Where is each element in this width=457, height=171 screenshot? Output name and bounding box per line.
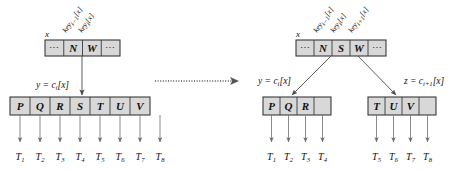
leaf-label: T4 (76, 151, 86, 163)
node-cell: W (87, 42, 98, 54)
pointer-label-x: x (44, 29, 49, 39)
node-cell: P (17, 100, 24, 112)
leaf-label: T5 (372, 151, 382, 163)
leaf-label: T6 (389, 151, 399, 163)
node-cell: Q (285, 100, 293, 112)
parent-right-child-edge (358, 56, 396, 95)
node-cell: W (354, 42, 365, 54)
leaf-label: T3 (301, 151, 311, 163)
edge-label-y: y = ci[x] (35, 80, 69, 91)
leaf-label: T4 (318, 151, 328, 163)
leaf-label: T6 (116, 151, 126, 163)
node-cell: S (77, 100, 83, 112)
leaf-label: T2 (36, 151, 46, 163)
edge-label-y: y = ci[x] (257, 76, 291, 87)
node-cell: S (338, 42, 344, 54)
leaf-label: T8 (423, 151, 433, 163)
node-cell: R (301, 100, 309, 112)
node-cell: N (318, 42, 328, 54)
edge-label-z: z = ci+1[x] (403, 76, 445, 87)
node-cell: Q (36, 100, 44, 112)
node-cell: U (116, 100, 125, 112)
leaf-label: T5 (96, 151, 106, 163)
leaf-label: T1 (267, 151, 276, 163)
node-cell: R (55, 100, 63, 112)
leaf-label: T8 (156, 151, 166, 163)
trail-ellipsis: ⋯ (372, 42, 383, 53)
node-cell: N (68, 42, 78, 54)
leaf-label: T7 (406, 151, 416, 163)
leaf-label: T3 (56, 151, 66, 163)
trail-ellipsis: ⋯ (105, 42, 116, 53)
lead-ellipsis: ⋯ (300, 42, 311, 53)
lead-ellipsis: ⋯ (49, 42, 60, 53)
left-panel-before-split: NW⋯⋯xkeyi−1[x]keyi[x]y = ci[x]PQRSTUVT1T… (10, 5, 165, 163)
parent-left-child-edge (292, 56, 331, 95)
key-label: keyi+1[x] (346, 5, 371, 35)
node-cell: U (390, 100, 399, 112)
node-cell: P (268, 100, 275, 112)
leaf-label: T7 (136, 151, 146, 163)
leaf-label: T2 (284, 151, 294, 163)
right-panel-after-split: NSW⋯⋯xkeyi−1[x]keyi[x]keyi+1[x]y = ci[x]… (257, 5, 445, 163)
figure-canvas: NW⋯⋯xkeyi−1[x]keyi[x]y = ci[x]PQRSTUVT1T… (0, 0, 457, 171)
leaf-label: T1 (16, 151, 25, 163)
pointer-label-x: x (295, 29, 300, 39)
